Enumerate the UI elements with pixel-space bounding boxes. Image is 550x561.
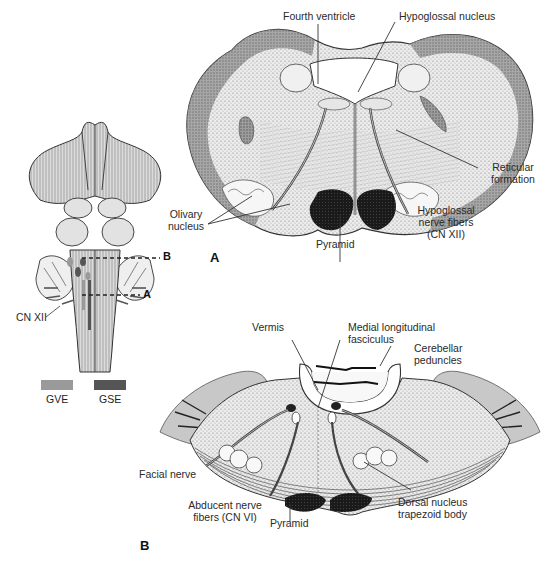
label-hypoglossal-fibers-line2: nerve fibers <box>406 216 486 228</box>
level-marker-a: A <box>143 288 151 300</box>
label-dorsal-nucleus-line1: Dorsal nucleus <box>398 496 467 508</box>
label-hypoglossal-fibers-line1: Hypoglossal <box>406 204 486 216</box>
label-mlf-line1: Medial longitudinal <box>348 321 435 333</box>
brainstem-diagram-canvas <box>0 0 550 561</box>
panel-letter-a: A <box>210 250 219 265</box>
label-reticular-formation-line2: formation <box>478 173 548 185</box>
label-cerebellar-peduncles-line2: peduncles <box>414 354 462 366</box>
legend-swatch-gve <box>41 380 73 390</box>
label-cerebellar-peduncles-line1: Cerebellar <box>414 342 462 354</box>
label-abducent-line1: Abducent nerve <box>180 499 270 511</box>
label-pyramid-b: Pyramid <box>270 517 309 529</box>
legend-label-gse: GSE <box>99 393 121 405</box>
label-abducent-line2: fibers (CN VI) <box>180 511 270 523</box>
label-hypoglossal-fibers-line3: (CN XII) <box>406 228 486 240</box>
label-hypoglossal-nucleus: Hypoglossal nucleus <box>399 10 495 22</box>
label-dorsal-nucleus-line2: trapezoid body <box>398 508 467 520</box>
label-olivary-nucleus-line2: nucleus <box>160 220 212 232</box>
legend-label-gve: GVE <box>46 393 68 405</box>
brainstem-dorsal-view <box>29 122 160 372</box>
label-vermis: Vermis <box>252 321 284 333</box>
pons-cross-section <box>160 364 540 515</box>
label-facial-nerve: Facial nerve <box>139 468 196 480</box>
label-reticular-formation-line1: Reticular <box>478 161 548 173</box>
panel-letter-b: B <box>140 538 149 553</box>
label-olivary-nucleus-line1: Olivary <box>160 208 212 220</box>
label-fourth-ventricle: Fourth ventricle <box>283 10 355 22</box>
label-mlf-line2: fasciculus <box>348 333 394 345</box>
label-pyramid-a: Pyramid <box>316 238 355 250</box>
level-marker-b: B <box>163 250 171 262</box>
label-cn-xii: CN XII <box>16 311 47 323</box>
cn-xii-leader <box>46 306 60 317</box>
legend-swatch-gse <box>94 380 126 390</box>
